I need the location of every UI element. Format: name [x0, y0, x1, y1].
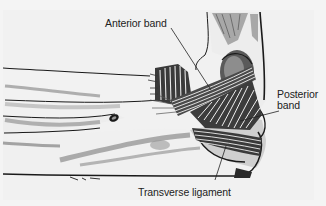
anterior-band-label: Anterior band [105, 18, 167, 29]
transverse-ligament-label: Transverse ligament [138, 187, 231, 198]
posterior-band-label-line2: band [277, 100, 300, 111]
anatomical-figure: Anterior band Posterior band Transverse … [0, 0, 326, 206]
